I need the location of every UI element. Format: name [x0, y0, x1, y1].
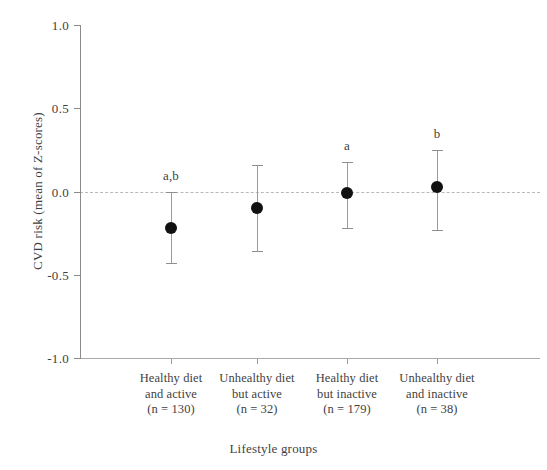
- data-point-marker-1: [165, 222, 177, 234]
- y-tick-label-3: 0.0: [17, 186, 69, 199]
- significance-label-3: a: [312, 138, 382, 154]
- y-tick-3: [74, 192, 81, 193]
- x-category-line2: and inactive: [383, 387, 491, 403]
- x-tick-4: [437, 359, 438, 364]
- data-point-marker-4: [431, 181, 443, 193]
- zero-reference-line: [80, 192, 540, 193]
- error-bar-cap-upper-3: [342, 162, 353, 163]
- y-tick-4: [74, 275, 81, 276]
- error-bar-cap-lower-1: [166, 263, 177, 264]
- y-tick-label-1: 1.0: [17, 19, 69, 32]
- y-tick-1: [74, 25, 81, 26]
- y-tick-5: [74, 358, 81, 359]
- x-axis-title: Lifestyle groups: [0, 441, 547, 457]
- x-category-label-4: Unhealthy diet and inactive (n = 38): [383, 371, 491, 418]
- x-tick-2: [257, 359, 258, 364]
- error-bar-cap-upper-2: [252, 165, 263, 166]
- x-category-line1: Unhealthy diet: [383, 371, 491, 387]
- y-tick-label-2: 0.5: [17, 102, 69, 115]
- error-bar-cap-upper-1: [166, 192, 177, 193]
- y-tick-label-5: -1.0: [17, 352, 69, 365]
- x-category-n: (n = 38): [383, 402, 491, 418]
- significance-label-4: b: [402, 126, 472, 142]
- error-bar-cap-upper-4: [432, 150, 443, 151]
- x-tick-1: [171, 359, 172, 364]
- x-tick-3: [347, 359, 348, 364]
- cvd-risk-lifestyle-chart: CVD risk (mean of Z-scores) 1.0 0.5 0.0 …: [0, 0, 547, 470]
- y-tick-label-4: -0.5: [17, 269, 69, 282]
- error-bar-cap-lower-3: [342, 228, 353, 229]
- significance-label-1: a,b: [136, 168, 206, 184]
- x-axis-line: [80, 358, 540, 359]
- data-point-marker-2: [251, 202, 263, 214]
- y-tick-2: [74, 108, 81, 109]
- error-bar-cap-lower-2: [252, 251, 263, 252]
- data-point-marker-3: [341, 187, 353, 199]
- error-bar-cap-lower-4: [432, 230, 443, 231]
